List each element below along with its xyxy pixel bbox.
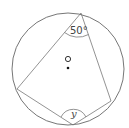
cyclic-quadrilateral [17, 13, 111, 125]
center-dot [67, 67, 70, 70]
angle-label-y: y [70, 108, 77, 119]
center-o-label-icon [65, 56, 70, 61]
angle-label-50: 50° [70, 25, 88, 36]
cyclic-quadrilateral-diagram: 50° y [0, 0, 129, 128]
